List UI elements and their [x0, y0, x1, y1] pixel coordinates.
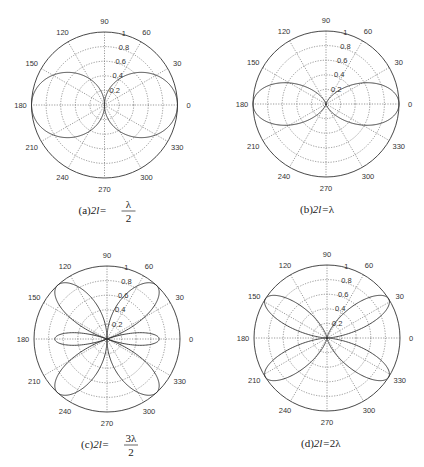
angle-tick-label: 330	[393, 376, 406, 385]
angle-tick-label: 210	[25, 143, 38, 152]
angle-tick-label: 90	[103, 251, 111, 260]
angle-tick-label: 300	[362, 172, 375, 181]
angle-tick-label: 300	[363, 406, 376, 415]
caption-numerator: 3λ	[126, 432, 138, 444]
chart-caption: (a)2l=λ2	[79, 198, 136, 224]
radial-tick-label: 1	[343, 28, 347, 37]
angle-tick-label: 330	[173, 377, 186, 386]
angle-tick-label: 240	[59, 407, 72, 416]
radial-tick-label: 0.8	[340, 42, 350, 51]
angle-tick-label: 30	[395, 58, 403, 67]
angle-tick-label: 120	[59, 262, 72, 271]
radial-tick-label: 1	[124, 263, 128, 272]
angle-tick-label: 30	[396, 292, 404, 301]
radial-tick-label: 0.6	[338, 290, 348, 299]
angle-tick-label: 210	[28, 377, 41, 386]
angle-tick-label: 330	[171, 143, 184, 152]
radial-tick-label: 0.4	[334, 70, 344, 79]
angle-tick-label: 0	[408, 100, 412, 109]
radial-tick-label: 0.4	[113, 71, 123, 80]
radial-tick-label: 1	[122, 29, 126, 38]
caption-text: (c)2l=	[81, 438, 109, 451]
polar-chart-a: 03060901201501802102402703003300.20.40.6…	[14, 17, 190, 224]
caption-denominator: 2	[126, 212, 132, 224]
caption-denominator: 2	[128, 446, 134, 458]
angle-tick-label: 330	[392, 142, 405, 151]
angle-tick-label: 240	[56, 173, 69, 182]
angle-tick-label: 120	[278, 27, 291, 36]
angle-tick-label: 150	[28, 293, 41, 302]
figure-canvas: 03060901201501802102402703003300.20.40.6…	[0, 0, 424, 467]
angle-tick-label: 180	[14, 101, 27, 110]
radial-tick-label: 0.6	[118, 291, 128, 300]
angle-tick-label: 90	[100, 17, 108, 26]
angle-tick-label: 270	[98, 185, 111, 194]
angle-tick-label: 150	[247, 58, 260, 67]
angle-tick-label: 270	[320, 184, 333, 193]
angle-tick-label: 120	[279, 261, 292, 270]
angle-tick-label: 270	[101, 419, 114, 428]
angle-tick-label: 60	[365, 261, 373, 270]
angle-tick-label: 60	[142, 28, 150, 37]
angle-tick-label: 180	[237, 334, 250, 343]
angle-tick-label: 0	[409, 334, 413, 343]
angle-tick-label: 120	[56, 28, 69, 37]
polar-chart-c: 03060901201501802102402703003300.20.40.6…	[17, 251, 193, 458]
caption-numerator: λ	[126, 198, 132, 210]
angle-tick-label: 240	[279, 406, 292, 415]
angle-tick-label: 270	[321, 418, 334, 427]
angle-tick-label: 300	[143, 407, 156, 416]
angle-tick-label: 0	[189, 335, 193, 344]
radial-tick-label: 0.4	[335, 304, 345, 313]
radial-tick-label: 0.2	[112, 320, 122, 329]
caption-text: (a)2l=	[79, 204, 107, 217]
radial-tick-label: 0.6	[116, 57, 126, 66]
angle-tick-label: 0	[186, 101, 190, 110]
caption-text: (b)2l=λ	[300, 203, 335, 216]
radial-tick-label: 0.4	[115, 305, 125, 314]
angle-tick-label: 30	[176, 293, 184, 302]
polar-chart-b: 03060901201501802102402703003300.20.40.6…	[236, 16, 412, 216]
radial-tick-label: 0.6	[337, 56, 347, 65]
angle-tick-label: 90	[323, 250, 331, 259]
caption-text: (d)2l=2λ	[301, 437, 341, 450]
angle-tick-label: 150	[25, 59, 38, 68]
angle-tick-label: 90	[322, 16, 330, 25]
angle-tick-label: 150	[248, 292, 261, 301]
angle-tick-label: 60	[145, 262, 153, 271]
radial-tick-label: 0.8	[341, 276, 351, 285]
angle-tick-label: 30	[173, 59, 181, 68]
radial-tick-label: 0.8	[121, 277, 131, 286]
chart-caption: (c)2l=3λ2	[81, 432, 138, 458]
polar-chart-d: 03060901201501802102402703003300.20.40.6…	[237, 250, 413, 450]
chart-caption: (b)2l=λ	[300, 203, 335, 216]
angle-tick-label: 210	[248, 376, 261, 385]
chart-caption: (d)2l=2λ	[301, 437, 341, 450]
angle-tick-label: 180	[17, 335, 30, 344]
radial-tick-label: 1	[344, 262, 348, 271]
angle-tick-label: 240	[278, 172, 291, 181]
angle-tick-label: 300	[140, 173, 153, 182]
angle-tick-label: 60	[364, 27, 372, 36]
angle-tick-label: 210	[247, 142, 260, 151]
radial-tick-label: 0.8	[119, 43, 129, 52]
angle-tick-label: 180	[236, 100, 249, 109]
